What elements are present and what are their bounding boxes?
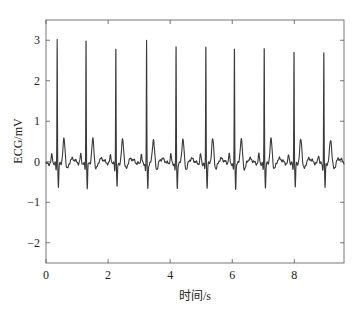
y-tick-label: −1: [27, 195, 40, 209]
y-tick-label: 2: [34, 74, 40, 88]
y-axis-label: ECG/mV: [11, 118, 25, 164]
y-tick-label: 3: [34, 33, 40, 47]
x-axis-label: 时间/s: [179, 289, 211, 303]
ecg-chart: 02468 −2−10123 时间/s ECG/mV: [0, 0, 363, 313]
x-tick-label: 4: [167, 268, 173, 282]
y-tick-label: 0: [34, 155, 40, 169]
y-tick-label: −2: [27, 236, 40, 250]
y-tick-label: 1: [34, 114, 40, 128]
x-tick-label: 2: [105, 268, 111, 282]
plot-background: [46, 20, 344, 263]
x-tick-label: 0: [43, 268, 49, 282]
x-tick-label: 8: [291, 268, 297, 282]
x-tick-label: 6: [229, 268, 235, 282]
